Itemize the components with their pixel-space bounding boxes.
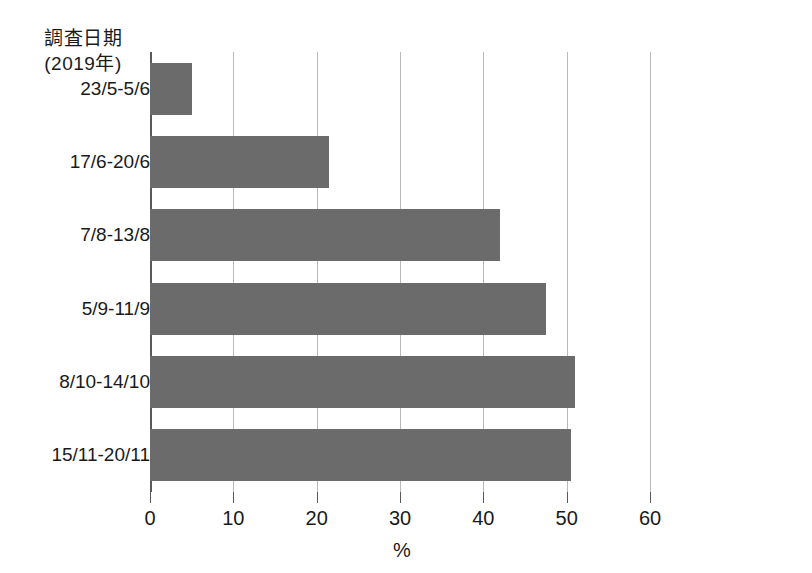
y-axis-title-line-1: 調査日期 [44, 28, 122, 49]
y-axis-tick-label: 17/6-20/6 [0, 151, 150, 173]
x-tick-60 [650, 492, 651, 503]
y-axis-tick-label: 8/10-14/10 [0, 371, 150, 393]
y-axis-tick-label: 5/9-11/9 [0, 298, 150, 320]
x-axis-unit-label: % [393, 538, 411, 562]
y-axis-tick-label: 23/5-5/6 [0, 78, 150, 100]
x-tick-20 [317, 492, 318, 503]
x-tick-label: 0 [144, 506, 155, 530]
y-axis-tick-label: 15/11-20/11 [0, 444, 150, 466]
y-axis-title-line-2: (2019年) [18, 51, 148, 76]
bar-row [150, 63, 192, 115]
x-tick-label: 30 [389, 506, 411, 530]
bar [150, 356, 575, 408]
bar [150, 209, 500, 261]
bar [150, 429, 571, 481]
y-axis-tick-label: 7/8-13/8 [0, 224, 150, 246]
x-tick-50 [567, 492, 568, 503]
x-tick-40 [483, 492, 484, 503]
y-axis-title: 調査日期 (2019年) [18, 26, 148, 76]
bar [150, 63, 192, 115]
x-tick-label: 60 [639, 506, 661, 530]
x-tick-label: 10 [222, 506, 244, 530]
bar-chart: 調査日期 (2019年) 23/5-5/617/6-20/67/8-13/85/… [0, 0, 812, 573]
x-tick-0 [150, 492, 151, 503]
bar-row [150, 209, 500, 261]
x-tick-label: 20 [306, 506, 328, 530]
x-tick-label: 40 [472, 506, 494, 530]
x-axis: 0102030405060 [150, 492, 650, 493]
bar-row [150, 356, 575, 408]
x-tick-30 [400, 492, 401, 503]
gridline-60 [650, 52, 651, 492]
x-tick-10 [233, 492, 234, 503]
bar [150, 136, 329, 188]
bar-row [150, 136, 329, 188]
plot-area [150, 52, 650, 492]
bars-group [150, 52, 650, 492]
bar-row [150, 429, 571, 481]
bar-row [150, 283, 546, 335]
x-tick-label: 50 [556, 506, 578, 530]
bar [150, 283, 546, 335]
